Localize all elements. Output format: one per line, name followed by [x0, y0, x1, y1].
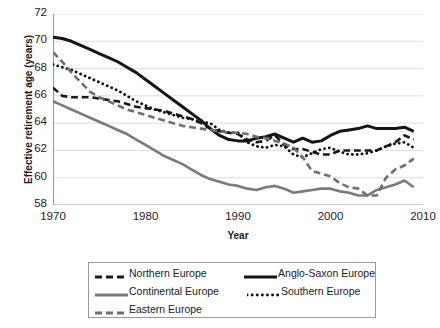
retirement-age-line-chart: Effective retirement age (years) 5860626… [0, 0, 440, 328]
legend-swatch-dashed-icon [95, 268, 128, 278]
legend-item-northern-europe[interactable]: Northern Europe [89, 267, 238, 279]
x-tick-label: 1990 [208, 210, 268, 222]
series-line [53, 64, 414, 157]
legend-row: Continental EuropeSouthern Europe [89, 282, 375, 299]
y-tick-label: 60 [17, 170, 47, 182]
legend-label: Continental Europe [129, 285, 219, 297]
legend-swatch-solid-icon [95, 286, 128, 296]
y-tick-label: 68 [17, 61, 47, 73]
x-tick-label: 2000 [301, 210, 361, 222]
series-line [53, 88, 414, 155]
legend-swatch-solid-icon [244, 268, 277, 278]
series-canvas [53, 14, 423, 205]
series-line [53, 101, 414, 195]
legend: Northern EuropeAnglo-Saxon EuropeContine… [88, 262, 376, 318]
legend-label: Eastern Europe [129, 303, 202, 315]
x-tick-label: 2010 [393, 210, 440, 222]
legend-label: Northern Europe [129, 267, 207, 279]
legend-item-anglo-saxon-europe[interactable]: Anglo-Saxon Europe [238, 267, 375, 279]
series-line [53, 52, 414, 195]
legend-row: Eastern Europe [89, 300, 375, 317]
legend-swatch-dashed-icon [95, 304, 128, 314]
legend-item-southern-europe[interactable]: Southern Europe [241, 285, 360, 297]
y-tick-label: 70 [17, 33, 47, 45]
legend-item-eastern-europe[interactable]: Eastern Europe [89, 303, 241, 315]
legend-label: Anglo-Saxon Europe [278, 267, 375, 279]
y-tick-label: 66 [17, 88, 47, 100]
x-axis-title: Year [53, 230, 423, 241]
legend-swatch-dotted-icon [247, 286, 280, 296]
plot-area [53, 14, 423, 205]
y-tick-label: 62 [17, 142, 47, 154]
y-tick-label: 58 [17, 197, 47, 209]
x-tick-label: 1970 [23, 210, 83, 222]
x-tick-label: 1980 [116, 210, 176, 222]
y-tick-label: 72 [17, 6, 47, 18]
legend-label: Southern Europe [281, 285, 360, 297]
y-tick-label: 64 [17, 115, 47, 127]
legend-item-continental-europe[interactable]: Continental Europe [89, 285, 241, 297]
legend-row: Northern EuropeAnglo-Saxon Europe [89, 264, 375, 281]
